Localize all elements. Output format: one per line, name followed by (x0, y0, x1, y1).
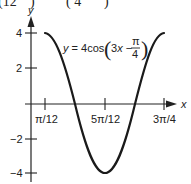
chart: (12 ) ( 4 ) y 4 2 −2 −4 x π/12 5π/12 3π/… (0, 0, 191, 184)
svg-text:3x −: 3x − (111, 42, 132, 54)
svg-text:y = 4cos: y = 4cos (62, 42, 105, 54)
equation-annotation: y = 4cos ( 3x − π 4 ) (62, 35, 148, 61)
y-tick-label: −2 (10, 133, 23, 145)
svg-text:(12: (12 (0, 0, 17, 10)
y-tick-label: 2 (16, 62, 22, 74)
y-tick-label: −4 (10, 167, 23, 179)
svg-text:π: π (132, 35, 140, 47)
x-tick-label: 5π/12 (91, 113, 120, 125)
svg-text:( 4: ( 4 (66, 0, 81, 10)
x-tick-label: 3π/4 (153, 113, 176, 125)
x-axis: x π/12 5π/12 3π/4 (25, 98, 187, 125)
x-axis-label: x (180, 98, 187, 110)
svg-text:): ) (141, 36, 148, 61)
y-tick-label: 4 (16, 27, 22, 39)
svg-text:): ) (104, 0, 109, 10)
svg-text:4: 4 (132, 48, 138, 60)
x-tick-label: π/12 (35, 113, 58, 125)
top-text-fragment: (12 ) ( 4 ) (0, 0, 109, 10)
y-axis-arrow-icon (28, 16, 35, 27)
x-axis-arrow-icon (166, 101, 177, 108)
y-axis: y 4 2 −2 −4 (10, 4, 37, 182)
